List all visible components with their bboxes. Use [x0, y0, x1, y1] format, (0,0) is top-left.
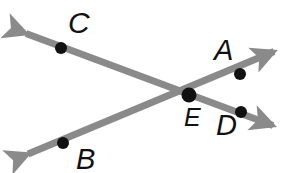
- point-label-b: B: [76, 145, 95, 173]
- point-label-c: C: [68, 8, 90, 38]
- point-label-a: A: [214, 36, 233, 65]
- point-a: [234, 68, 246, 80]
- point-e: [182, 88, 197, 103]
- geometry-figure: C A E D B: [0, 0, 295, 173]
- point-c: [55, 42, 67, 54]
- point-b: [57, 137, 69, 149]
- point-label-d: D: [216, 111, 237, 140]
- point-label-e: E: [184, 105, 201, 130]
- geometry-svg: [0, 0, 295, 173]
